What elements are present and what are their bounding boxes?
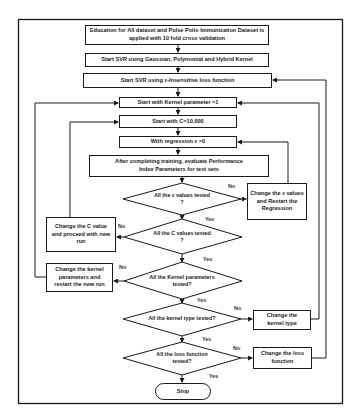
node-epsilon-init: With regression ε =0 xyxy=(119,136,237,148)
node-change-c: Change the C value and proceed with new … xyxy=(46,217,116,252)
node-start-svr-kernels: Start SVR using Gaussian, Polynomial and… xyxy=(85,53,269,67)
edge-label-no-kernel-params: No xyxy=(119,264,126,270)
node-change-kernel-params: Change the kernel parameters and restart… xyxy=(46,263,113,292)
node-evaluate: After completing training, evaluate Perf… xyxy=(89,155,269,177)
decision-kernel-type-label: All the kernel type tested? xyxy=(148,311,216,327)
flowchart: Education for All dataset and Pulse Poli… xyxy=(0,0,360,420)
decision-epsilon-label: All the ε values tested ? xyxy=(152,191,212,207)
edge-label-yes-c: Yes xyxy=(203,256,212,262)
node-stop: Stop xyxy=(155,383,211,400)
decision-loss-label: All the loss function tested? xyxy=(148,350,216,366)
node-change-loss: Change the loss function xyxy=(253,347,312,369)
edge-label-no-c: No xyxy=(118,223,125,229)
edge-label-yes-loss: Yes xyxy=(209,373,218,379)
node-start-svr-loss: Start SVR using ε-Insensitive loss funct… xyxy=(83,73,272,88)
node-c-init: Start with C=10,000 xyxy=(119,115,237,128)
edge-label-no-loss: No xyxy=(233,345,240,351)
node-kernel-param-init: Start with Kernel parameter =1 xyxy=(119,97,237,108)
edge-label-yes-epsilon: Yes xyxy=(205,216,214,222)
edge-label-no-kernel-type: No xyxy=(234,305,241,311)
node-change-kernel-type: Change the kernel type xyxy=(253,310,311,330)
edge-label-yes-kernel-params: Yes xyxy=(197,297,206,303)
edge-label-no-epsilon: No xyxy=(228,183,235,189)
decision-c-label: All the C values tested ? xyxy=(152,229,212,245)
edge-label-yes-kernel-type: Yes xyxy=(202,336,211,342)
node-start-data: Education for All dataset and Pulse Poli… xyxy=(85,25,269,45)
decision-kernel-params-label: All the Kernel parameters tested? xyxy=(146,273,218,289)
node-change-epsilon: Change the ε values and Restart the Regr… xyxy=(247,183,307,220)
